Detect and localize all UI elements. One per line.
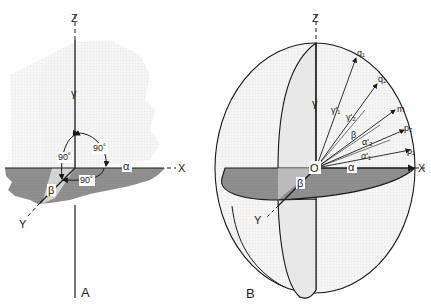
panel-a-beta-label: β: [48, 184, 54, 196]
panel-b-z-label: Z: [312, 12, 319, 24]
panel-b-gamma-label: γ: [312, 97, 318, 109]
angle-label-alpha2: α'₂: [362, 137, 373, 147]
figure-canvas: Z X Y γ α β 90˚ 90˚ 90˚ A: [0, 0, 431, 305]
panel-a-z-label: Z: [71, 12, 78, 24]
panel-a-x-label: X: [178, 162, 186, 174]
panel-a-y-label: Y: [19, 218, 27, 230]
angle-90-zy: 90˚: [58, 152, 71, 162]
angle-label-gamma1: γ'₁: [331, 105, 340, 115]
panel-a-alpha-label: α: [123, 160, 130, 172]
angle-label-beta: β: [351, 130, 356, 140]
angle-90-zx: 90˚: [93, 143, 106, 153]
vector-label-p2: p₂: [404, 123, 413, 133]
vector-label-q1: q₁: [357, 48, 365, 58]
vector-label-m: m: [397, 104, 405, 114]
panel-b-label: B: [246, 286, 255, 301]
vector-label-q2: q₂: [378, 74, 387, 84]
origin-label: O: [310, 162, 319, 174]
panel-a-label: A: [81, 285, 90, 300]
panel-a-xz-plane: [75, 40, 160, 168]
panel-a-gamma-label: γ: [71, 87, 77, 99]
angle-90-xy: 90˚: [80, 175, 93, 185]
angle-label-alpha1: α'₁: [361, 151, 371, 161]
angle-label-gamma2: γ'₂: [346, 112, 356, 122]
panel-b-alpha-label: α: [348, 161, 355, 173]
panel-b-y-label: Y: [254, 214, 262, 226]
panel-b: Z X Y γ O α β q₁ q₂ m p₂ p₁ γ'₁ γ'₂ β α'…: [215, 12, 428, 301]
panel-b-beta-label: β: [297, 177, 303, 189]
panel-b-x-label: X: [418, 162, 426, 174]
panel-a: Z X Y γ α β 90˚ 90˚ 90˚ A: [5, 12, 186, 300]
vector-label-p1: p₁: [407, 146, 415, 156]
